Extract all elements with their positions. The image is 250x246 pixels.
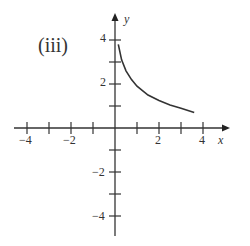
y-tick-label: −4 <box>92 209 105 224</box>
y-axis-label: y <box>124 12 129 27</box>
x-tick-label: 4 <box>199 133 205 148</box>
y-tick-label: −2 <box>92 165 105 180</box>
x-axis-label: x <box>218 133 223 148</box>
y-axis-arrow-icon <box>112 13 119 21</box>
x-tick-label: 2 <box>155 133 161 148</box>
y-tick-label: 4 <box>100 31 106 46</box>
x-tick-label: −4 <box>19 133 32 148</box>
panel-label: (iii) <box>38 34 68 57</box>
data-curve <box>118 44 194 112</box>
x-axis-arrow-icon <box>222 125 230 132</box>
y-tick-label: 2 <box>100 75 106 90</box>
x-tick-label: −2 <box>63 133 76 148</box>
